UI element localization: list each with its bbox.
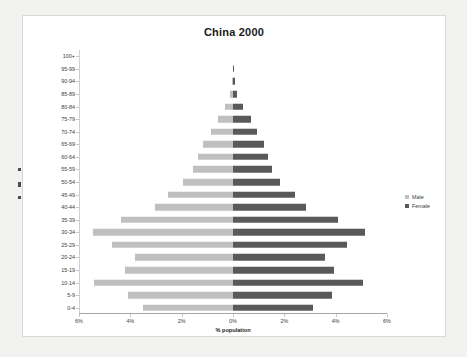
bar-female — [233, 128, 257, 135]
bar-female — [233, 254, 325, 261]
bar-female — [233, 179, 280, 186]
bar-male — [112, 242, 233, 249]
bar-male — [203, 141, 233, 148]
x-tick-mark — [387, 314, 388, 317]
legend-item-male: Male — [405, 194, 430, 200]
y-tick-label: 40-44 — [61, 204, 75, 210]
bar-row — [79, 176, 387, 189]
bar-male — [218, 116, 233, 123]
bar-row — [79, 125, 387, 138]
plot-area — [79, 50, 387, 314]
bar-female — [233, 279, 363, 286]
bar-row — [79, 163, 387, 176]
x-tick-label: 2% — [280, 318, 288, 324]
y-tick-label: 100+ — [63, 53, 75, 59]
x-tick-mark — [130, 314, 131, 317]
y-tick-label: 95-99 — [61, 66, 75, 72]
y-tick-label: 80-84 — [61, 104, 75, 110]
bar-male — [155, 204, 233, 211]
bar-male — [168, 191, 233, 198]
bar-female — [233, 204, 306, 211]
chart-title: China 2000 — [23, 26, 445, 38]
x-tick-label: 0% — [229, 318, 237, 324]
x-tick-mark — [182, 314, 183, 317]
bar-female — [233, 191, 295, 198]
y-tick-label: 5-9 — [67, 292, 75, 298]
bar-row — [79, 251, 387, 264]
x-tick-mark — [79, 314, 80, 317]
legend-item-female: Female — [405, 203, 430, 209]
bar-row — [79, 264, 387, 277]
bar-row — [79, 63, 387, 76]
bar-row — [79, 289, 387, 302]
bar-row — [79, 88, 387, 101]
bar-male — [121, 216, 233, 223]
bar-row — [79, 113, 387, 126]
scan-artifact-marks — [18, 168, 24, 210]
x-tick-label: 4% — [332, 318, 340, 324]
y-tick-label: 30-34 — [61, 229, 75, 235]
y-tick-label: 90-94 — [61, 78, 75, 84]
y-tick-label: 60-64 — [61, 154, 75, 160]
bar-male — [183, 179, 233, 186]
x-tick-label: 6% — [383, 318, 391, 324]
y-tick-label: 75-79 — [61, 116, 75, 122]
x-axis-labels: 6%4%2%0%2%4%6% — [79, 314, 387, 328]
bar-male — [198, 154, 233, 161]
bar-female — [233, 116, 251, 123]
y-tick-label: 65-69 — [61, 141, 75, 147]
bar-row — [79, 75, 387, 88]
y-tick-label: 55-59 — [61, 166, 75, 172]
y-tick-label: 85-89 — [61, 91, 75, 97]
bar-female — [233, 304, 313, 311]
x-tick-label: 2% — [178, 318, 186, 324]
bar-female — [233, 216, 338, 223]
legend-label-female: Female — [412, 203, 430, 209]
bar-female — [233, 229, 365, 236]
y-tick-label: 70-74 — [61, 129, 75, 135]
bar-row — [79, 226, 387, 239]
x-tick-label: 4% — [126, 318, 134, 324]
y-tick-label: 45-49 — [61, 192, 75, 198]
y-tick-label: 35-39 — [61, 217, 75, 223]
bar-row — [79, 138, 387, 151]
legend-swatch-female-icon — [405, 204, 409, 208]
bar-male — [93, 229, 233, 236]
bar-female — [233, 292, 332, 299]
bar-row — [79, 201, 387, 214]
x-tick-mark — [233, 314, 234, 317]
bar-male — [94, 279, 233, 286]
bar-female — [233, 267, 334, 274]
bar-female — [233, 103, 243, 110]
bar-row — [79, 213, 387, 226]
bar-male — [125, 267, 233, 274]
chart-legend: Male Female — [405, 194, 430, 212]
bar-male — [193, 166, 233, 173]
y-axis-labels: 0-45-910-1415-1920-2425-2930-3435-3940-4… — [33, 50, 75, 314]
x-tick-mark — [284, 314, 285, 317]
bar-row — [79, 100, 387, 113]
bar-female — [233, 141, 264, 148]
x-tick-label: 6% — [75, 318, 83, 324]
bar-male — [135, 254, 233, 261]
bar-row — [79, 276, 387, 289]
bar-female — [233, 91, 237, 98]
y-tick-label: 20-24 — [61, 254, 75, 260]
bar-male — [128, 292, 233, 299]
bar-male — [211, 128, 233, 135]
bar-row — [79, 188, 387, 201]
bar-female — [233, 166, 272, 173]
bar-female — [233, 78, 235, 85]
y-tick-label: 50-54 — [61, 179, 75, 185]
y-tick-label: 0-4 — [67, 305, 75, 311]
legend-label-male: Male — [412, 194, 424, 200]
bar-female — [233, 154, 268, 161]
bar-male — [225, 103, 233, 110]
legend-swatch-male-icon — [405, 195, 409, 199]
y-tick-label: 15-19 — [61, 267, 75, 273]
bar-row — [79, 239, 387, 252]
y-tick-label: 25-29 — [61, 242, 75, 248]
bar-male — [143, 304, 233, 311]
x-tick-mark — [336, 314, 337, 317]
chart-container: China 2000 0-45-910-1415-1920-2425-2930-… — [22, 15, 446, 337]
